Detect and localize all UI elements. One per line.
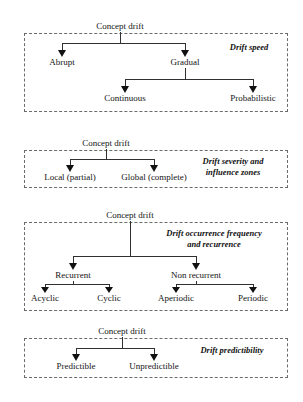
caption-drift-occurrence-line2: and recurrence [187,239,241,249]
node-aperiodic: Aperiodic [158,293,194,304]
node-probabilistic: Probabilistic [230,93,276,104]
caption-drift-occurrence-line1: Drift occurrence frequency [166,228,261,238]
node-continuous: Continuous [104,93,146,104]
diagram-canvas: Concept drift Abrupt Gradual Continuous … [0,0,303,402]
group-box-drift-predictability [24,338,288,378]
node-non-recurrent: Non recurrent [171,270,221,281]
caption-drift-severity-line2: influence zones [206,167,261,177]
node-unpredictible: Unpredictible [129,361,178,372]
node-local-partial: Local (partial) [44,172,96,183]
caption-drift-speed: Drift speed [230,42,268,53]
caption-drift-severity-line1: Drift severity and [203,156,264,166]
node-predictible: Predictible [57,361,96,372]
root-label-drift-severity: Concept drift [82,138,130,149]
caption-drift-predictability: Drift predictibility [200,345,263,356]
node-gradual: Gradual [171,57,200,68]
root-label-drift-speed: Concept drift [96,21,144,32]
caption-drift-occurrence: Drift occurrence frequency and recurrenc… [149,228,279,250]
root-label-drift-occurrence: Concept drift [106,210,154,221]
node-periodic: Periodic [238,293,268,304]
node-cyclic: Cyclic [97,293,121,304]
node-recurrent: Recurrent [55,270,90,281]
caption-drift-severity: Drift severity and influence zones [179,156,287,178]
node-acyclic: Acyclic [31,293,59,304]
node-abrupt: Abrupt [49,57,75,68]
root-label-drift-predictability: Concept drift [98,326,146,337]
node-global-complete: Global (complete) [121,172,187,183]
